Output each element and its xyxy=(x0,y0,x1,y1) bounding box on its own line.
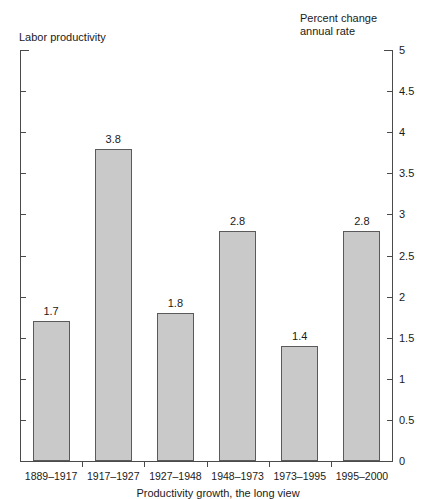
y-tick-label-0: 0 xyxy=(399,455,405,467)
separator-tick-0 xyxy=(82,462,83,467)
y-tick-label-4: 4 xyxy=(399,126,405,138)
right-axis-line xyxy=(392,50,393,462)
bar-value-1973–1995: 1.4 xyxy=(280,330,320,342)
y-tick-right-2.5 xyxy=(387,256,392,257)
y-tick-label-5: 5 xyxy=(399,44,405,56)
bar-1995–2000 xyxy=(343,231,380,461)
y-tick-right-3 xyxy=(387,214,392,215)
separator-tick-2 xyxy=(207,462,208,467)
y-tick-label-3.5: 3.5 xyxy=(399,167,414,179)
left-axis-title: Labor productivity xyxy=(19,31,106,44)
y-tick-right-0.5 xyxy=(387,420,392,421)
y-tick-left-0 xyxy=(21,461,26,462)
category-label-1927–1948: 1927–1948 xyxy=(143,470,207,482)
y-tick-left-2.5 xyxy=(21,256,26,257)
right-axis-top-cap xyxy=(384,50,392,51)
y-tick-label-0.5: 0.5 xyxy=(399,414,414,426)
bar-value-1917–1927: 3.8 xyxy=(93,133,133,145)
separator-tick-4 xyxy=(331,462,332,467)
left-axis-top-cap xyxy=(21,50,29,51)
category-label-1973–1995: 1973–1995 xyxy=(268,470,332,482)
y-tick-label-3: 3 xyxy=(399,208,405,220)
category-label-1995–2000: 1995–2000 xyxy=(330,470,394,482)
y-tick-label-1.5: 1.5 xyxy=(399,332,414,344)
y-tick-left-4.5 xyxy=(21,91,26,92)
y-tick-label-2.5: 2.5 xyxy=(399,250,414,262)
bar-1948–1973 xyxy=(219,231,256,461)
y-tick-left-3.5 xyxy=(21,173,26,174)
bar-1973–1995 xyxy=(281,346,318,461)
y-tick-label-2: 2 xyxy=(399,291,405,303)
bar-value-1995–2000: 2.8 xyxy=(342,215,382,227)
y-tick-left-3 xyxy=(21,214,26,215)
y-tick-right-2 xyxy=(387,297,392,298)
figure-caption: Productivity growth, the long view xyxy=(0,487,436,499)
y-tick-label-1: 1 xyxy=(399,373,405,385)
category-label-1889–1917: 1889–1917 xyxy=(19,470,83,482)
separator-tick-1 xyxy=(144,462,145,467)
bar-1917–1927 xyxy=(95,149,132,461)
separator-tick-3 xyxy=(269,462,270,467)
y-tick-left-0.5 xyxy=(21,420,26,421)
y-tick-label-4.5: 4.5 xyxy=(399,85,414,97)
y-tick-right-1.5 xyxy=(387,338,392,339)
y-tick-right-0 xyxy=(387,461,392,462)
y-tick-left-4 xyxy=(21,132,26,133)
right-axis-title: Percent change annual rate xyxy=(300,12,377,38)
y-tick-left-1 xyxy=(21,379,26,380)
y-tick-left-2 xyxy=(21,297,26,298)
bar-1927–1948 xyxy=(157,313,194,461)
bar-value-1948–1973: 2.8 xyxy=(218,215,258,227)
y-tick-right-3.5 xyxy=(387,173,392,174)
bar-1889–1917 xyxy=(33,321,70,461)
y-tick-right-4.5 xyxy=(387,91,392,92)
bar-value-1889–1917: 1.7 xyxy=(31,305,71,317)
y-tick-right-4 xyxy=(387,132,392,133)
category-label-1917–1927: 1917–1927 xyxy=(81,470,145,482)
y-tick-left-1.5 xyxy=(21,338,26,339)
category-label-1948–1973: 1948–1973 xyxy=(206,470,270,482)
y-tick-right-1 xyxy=(387,379,392,380)
plot-area: 00.511.522.533.544.55 1.73.81.82.81.42.8… xyxy=(20,50,393,462)
bar-value-1927–1948: 1.8 xyxy=(155,297,195,309)
